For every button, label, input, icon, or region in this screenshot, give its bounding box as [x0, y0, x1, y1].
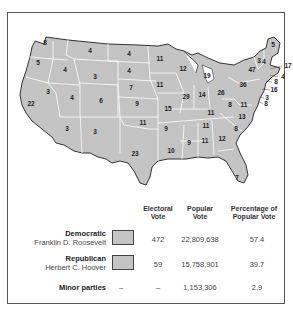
democratic-swatch: [112, 230, 134, 245]
candidate-name: Herbert C. Hoover: [45, 263, 106, 272]
header-electoral-vote: Electoral Vote: [140, 205, 176, 221]
state-ev-tx: 23: [131, 151, 138, 158]
democratic-electoral: 472: [152, 235, 165, 244]
state-ev-sc: 8: [234, 126, 238, 133]
state-ev-ca: 22: [27, 101, 34, 108]
state-ev-nj: 16: [270, 87, 277, 94]
state-ev-ok: 11: [140, 120, 147, 127]
state-ev-vt: 3: [257, 58, 261, 65]
legend-row-democratic-label: Democratic Franklin D. Roosevelt: [34, 229, 106, 247]
state-ev-mi: 19: [203, 73, 210, 80]
state-ev-ri: 4: [281, 74, 285, 81]
state-ev-wv: 8: [228, 102, 232, 109]
state-ev-ma: 17: [284, 63, 291, 70]
democratic-popular: 22,809,638: [181, 235, 219, 244]
state-ev-id: 4: [63, 67, 67, 74]
state-ev-sd: 4: [127, 68, 131, 75]
minor-swatch-dash: –: [119, 283, 123, 292]
state-ev-ky: 11: [208, 110, 215, 117]
state-ev-pa: 36: [239, 82, 246, 89]
state-ev-in: 14: [198, 92, 205, 99]
democratic-percentage: 57.4: [250, 235, 265, 244]
party-name: Minor parties: [59, 283, 106, 292]
state-ev-nd: 4: [127, 51, 131, 58]
minor-electoral: –: [156, 283, 160, 292]
republican-swatch: [112, 255, 134, 270]
legend-row-minor-label: Minor parties: [59, 283, 106, 292]
candidate-name: Franklin D. Roosevelt: [34, 238, 106, 247]
state-ev-fl: 7: [235, 175, 239, 182]
state-ev-ar: 9: [164, 126, 168, 133]
minor-percentage: 2.9: [252, 283, 262, 292]
state-ev-md: 8: [264, 101, 268, 108]
party-name: Republican: [45, 254, 106, 263]
results-legend: Electoral Vote Popular Vote Percentage o…: [8, 205, 286, 305]
state-ev-me: 5: [271, 42, 275, 49]
state-ev-co: 6: [99, 98, 103, 105]
state-ev-wa: 8: [43, 40, 47, 47]
state-ev-nc: 13: [238, 114, 245, 121]
state-ev-wy: 3: [93, 74, 97, 81]
state-ev-wi: 12: [179, 66, 186, 73]
minor-popular: 1,153,306: [183, 283, 216, 292]
state-ev-al: 11: [202, 138, 209, 145]
republican-electoral: 59: [154, 260, 162, 269]
header-percentage-popular-vote: Percentage of Popular Vote: [226, 205, 282, 221]
state-ev-mo: 15: [164, 106, 171, 113]
state-ev-mn: 11: [157, 56, 164, 63]
legend-row-republican-label: Republican Herbert C. Hoover: [45, 254, 106, 272]
state-ev-ut: 4: [70, 95, 74, 102]
state-ev-ga: 12: [218, 136, 225, 143]
state-ev-la: 10: [167, 148, 174, 155]
state-ev-ks: 9: [135, 101, 139, 108]
party-name: Democratic: [34, 229, 106, 238]
state-ev-oh: 26: [217, 90, 224, 97]
state-ev-tn: 11: [203, 123, 210, 130]
state-ev-ct: 8: [274, 79, 278, 86]
republican-percentage: 39.7: [250, 260, 265, 269]
map-frame: 8522434346334479112311111591012291914261…: [7, 12, 285, 304]
state-ev-mt: 4: [88, 48, 92, 55]
state-ev-ny: 47: [248, 67, 255, 74]
state-ev-ia: 11: [157, 82, 164, 89]
state-ev-ms: 9: [187, 140, 191, 147]
state-ev-or: 5: [36, 60, 40, 67]
state-ev-az: 3: [65, 126, 69, 133]
state-ev-nv: 3: [46, 89, 50, 96]
state-ev-ne: 7: [129, 85, 133, 92]
header-popular-vote: Popular Vote: [183, 205, 217, 221]
state-ev-nh: 4: [262, 59, 266, 66]
state-ev-nm: 3: [93, 129, 97, 136]
state-ev-il: 29: [182, 94, 189, 101]
state-ev-va: 11: [241, 102, 248, 109]
republican-popular: 15,758,901: [181, 260, 219, 269]
us-electoral-map: 8522434346334479112311111591012291914261…: [8, 13, 286, 203]
